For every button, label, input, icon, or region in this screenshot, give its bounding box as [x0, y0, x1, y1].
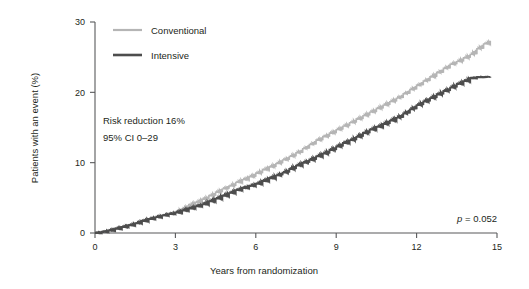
y-axis-title: Patients with an event (%) [29, 73, 40, 183]
annotations: Risk reduction 16% 95% CI 0–29 p = 0.052 [103, 115, 497, 224]
y-axis-tick-label: 30 [75, 17, 85, 27]
x-axis-tick-labels: 03691215 [92, 242, 502, 252]
annotation-p-value: p = 0.052 [456, 213, 497, 224]
y-axis-ticks [90, 22, 95, 233]
p-value-number: = 0.052 [462, 213, 497, 224]
y-axis-tick-label: 20 [75, 88, 85, 98]
x-axis-tick-label: 12 [412, 242, 422, 252]
y-axis-tick-label: 10 [75, 158, 85, 168]
y-axis-tick-label: 0 [80, 228, 85, 238]
legend: Conventional Intensive [113, 25, 206, 61]
y-axis-tick-labels: 0102030 [75, 17, 85, 238]
annotation-risk-reduction: Risk reduction 16% [103, 115, 185, 126]
chart-canvas: 0102030 03691215 Years from randomizatio… [0, 0, 529, 289]
legend-label-intensive: Intensive [151, 50, 189, 61]
x-axis-tick-label: 9 [334, 242, 339, 252]
x-axis-tick-label: 15 [492, 242, 502, 252]
x-axis-ticks [95, 233, 497, 238]
x-axis-tick-label: 0 [92, 242, 97, 252]
x-axis-title: Years from randomization [210, 265, 318, 276]
x-axis-tick-label: 6 [253, 242, 258, 252]
annotation-confidence-interval: 95% CI 0–29 [103, 132, 158, 143]
kaplan-meier-figure: 0102030 03691215 Years from randomizatio… [0, 0, 529, 289]
legend-label-conventional: Conventional [151, 25, 206, 36]
x-axis-tick-label: 3 [173, 242, 178, 252]
